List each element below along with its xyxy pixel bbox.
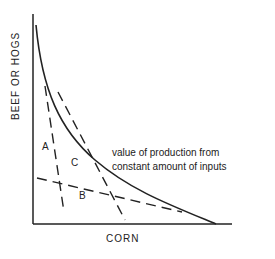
production-possibility-diagram [0,0,275,259]
x-axis-label: CORN [106,233,139,244]
y-axis-label: BEEF OR HOGS [10,32,21,120]
region-label-a: A [42,141,49,152]
dashed-line-b [37,178,182,212]
region-label-b: B [79,190,86,201]
annotation-line-1: value of production from [112,146,227,160]
curve-annotation: value of production from constant amount… [112,146,227,174]
production-possibility-curve [36,25,216,224]
region-label-c: C [71,157,78,168]
annotation-line-2: constant amount of inputs [112,160,227,174]
